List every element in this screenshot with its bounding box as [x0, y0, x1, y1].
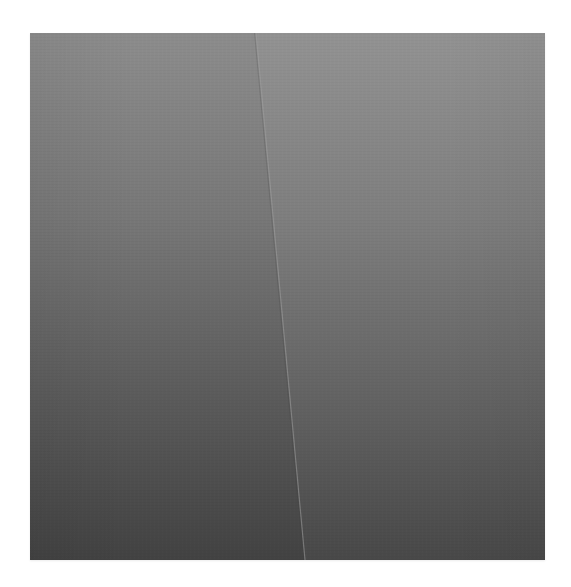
photo-frame [30, 33, 545, 560]
grain-overlay [30, 33, 545, 560]
